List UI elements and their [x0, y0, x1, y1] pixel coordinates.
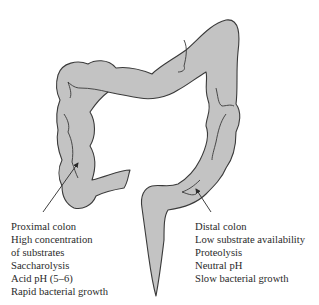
- proximal-line: Proximal colon: [11, 220, 108, 233]
- proximal-colon-label: Proximal colon High concentration of sub…: [11, 220, 108, 298]
- proximal-line: Rapid bacterial growth: [11, 285, 108, 298]
- proximal-line: Acid pH (5–6): [11, 272, 108, 285]
- distal-line: Proteolysis: [195, 246, 305, 259]
- distal-line: Slow bacterial growth: [195, 272, 305, 285]
- distal-line: Low substrate availability: [195, 233, 305, 246]
- distal-line: Neutral pH: [195, 259, 305, 272]
- proximal-line: High concentration: [11, 233, 108, 246]
- distal-line: Distal colon: [195, 220, 305, 233]
- proximal-line: Saccharolysis: [11, 259, 108, 272]
- proximal-line: of substrates: [11, 246, 108, 259]
- distal-colon-label: Distal colon Low substrate availability …: [195, 220, 305, 285]
